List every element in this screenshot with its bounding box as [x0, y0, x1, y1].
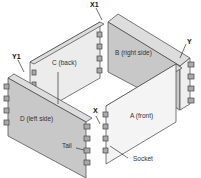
tail-callout: Tail: [62, 143, 72, 150]
panel-c-label: C (back): [52, 60, 77, 67]
panel-b-label: B (right side): [115, 50, 152, 57]
dovetail-box-diagram: C (back) B (right side) A (front) D (lef…: [0, 0, 201, 178]
corner-label-y1: Y1: [12, 53, 21, 60]
panel-d-label: D (left side): [20, 116, 53, 123]
corner-label-x: X: [93, 107, 98, 114]
panel-a-label: A (front): [130, 113, 153, 120]
diagram-canvas: [0, 0, 201, 178]
corner-label-x1: X1: [90, 1, 99, 8]
socket-callout: Socket: [133, 156, 153, 163]
corner-label-y: Y: [187, 38, 192, 45]
